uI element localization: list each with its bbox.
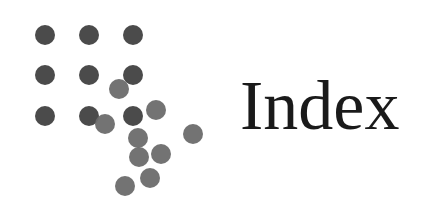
scattered-dot-icon (128, 128, 148, 148)
scattered-dot-icon (151, 144, 171, 164)
scattered-dot-icon (140, 168, 160, 188)
grid-dot-icon (35, 106, 55, 126)
grid-dot-icon (35, 65, 55, 85)
grid-dot-icon (123, 106, 143, 126)
scattered-dot-icon (95, 114, 115, 134)
scattered-dot-icon (146, 100, 166, 120)
scattered-dot-icon (183, 124, 203, 144)
scattered-dot-icon (115, 176, 135, 196)
grid-dot-icon (35, 25, 55, 45)
grid-dot-icon (123, 25, 143, 45)
grid-dot-icon (79, 25, 99, 45)
scattered-dot-icon (109, 79, 129, 99)
page-title: Index (240, 66, 399, 146)
grid-dot-icon (79, 65, 99, 85)
scattered-dot-icon (129, 147, 149, 167)
dot-grid-logo-icon (0, 0, 230, 206)
